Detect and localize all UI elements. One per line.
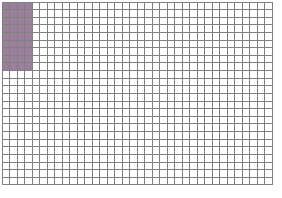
grid-cell-empty — [10, 109, 18, 117]
grid-cell-empty — [257, 116, 265, 124]
grid-cell-empty — [212, 32, 220, 40]
grid-cell-empty — [242, 78, 250, 86]
grid-cell-empty — [265, 177, 273, 185]
grid-cell-empty — [130, 32, 138, 40]
grid-cell-empty — [175, 10, 183, 18]
grid-cell-empty — [77, 2, 85, 10]
grid-cell-empty — [242, 132, 250, 140]
grid-cell-empty — [130, 93, 138, 101]
grid-cell-empty — [85, 109, 93, 117]
grid-cell-empty — [10, 93, 18, 101]
grid-cell-empty — [70, 63, 78, 71]
grid-cell-empty — [265, 101, 273, 109]
grid-cell-empty — [145, 71, 153, 79]
grid-cell-empty — [100, 55, 108, 63]
grid-cell-empty — [40, 154, 48, 162]
grid-cell-empty — [85, 162, 93, 170]
grid-cell-empty — [220, 48, 228, 56]
grid-cell-empty — [92, 132, 100, 140]
grid-cell-empty — [265, 154, 273, 162]
grid-cell-empty — [107, 132, 115, 140]
grid-cell-empty — [17, 154, 25, 162]
grid-cell-empty — [212, 124, 220, 132]
grid-cell-empty — [122, 177, 130, 185]
grid-cell-empty — [250, 10, 258, 18]
grid-cell-empty — [85, 10, 93, 18]
grid-cell-empty — [167, 177, 175, 185]
grid-cell-empty — [2, 86, 10, 94]
grid-cell-empty — [92, 124, 100, 132]
grid-cell-empty — [205, 101, 213, 109]
grid-cell-empty — [265, 25, 273, 33]
grid-cell-empty — [220, 154, 228, 162]
grid-cell-empty — [40, 109, 48, 117]
grid-cell-empty — [182, 170, 190, 178]
grid-cell-empty — [197, 10, 205, 18]
grid-cell-empty — [92, 101, 100, 109]
grid-cell-empty — [220, 109, 228, 117]
grid-cell-filled — [2, 10, 10, 18]
grid-cell-empty — [220, 2, 228, 10]
grid-cell-empty — [152, 101, 160, 109]
grid-cell-empty — [212, 139, 220, 147]
grid-cell-empty — [257, 124, 265, 132]
grid-cell-empty — [130, 177, 138, 185]
grid-cell-empty — [242, 2, 250, 10]
grid-cell-empty — [55, 109, 63, 117]
grid-cell-empty — [145, 78, 153, 86]
grid-cell-empty — [85, 48, 93, 56]
grid-cell-empty — [115, 32, 123, 40]
grid-cell-empty — [2, 154, 10, 162]
grid-cell-empty — [92, 116, 100, 124]
grid-cell-empty — [257, 86, 265, 94]
grid-cell-empty — [107, 78, 115, 86]
grid-cell-empty — [242, 139, 250, 147]
grid-cell-empty — [182, 124, 190, 132]
grid-cell-empty — [227, 154, 235, 162]
grid-cell-empty — [92, 78, 100, 86]
grid-cell-empty — [167, 63, 175, 71]
grid-cell-empty — [77, 109, 85, 117]
grid-cell-empty — [25, 177, 33, 185]
grid-cell-filled — [10, 32, 18, 40]
grid-cell-empty — [47, 154, 55, 162]
grid-cell-empty — [145, 109, 153, 117]
grid-cell-empty — [2, 71, 10, 79]
grid-cell-empty — [197, 40, 205, 48]
grid-cell-empty — [122, 162, 130, 170]
grid-cell-empty — [32, 116, 40, 124]
grid-cell-empty — [40, 124, 48, 132]
grid-cell-filled — [10, 2, 18, 10]
grid-cell-empty — [250, 132, 258, 140]
grid-cell-empty — [197, 101, 205, 109]
grid-cell-empty — [197, 71, 205, 79]
grid-cell-empty — [167, 162, 175, 170]
grid-cell-empty — [227, 170, 235, 178]
grid-cell-empty — [190, 139, 198, 147]
grid-cell-empty — [145, 86, 153, 94]
grid-cell-empty — [107, 170, 115, 178]
grid-cell-empty — [137, 17, 145, 25]
grid-cell-empty — [182, 132, 190, 140]
grid-cell-empty — [182, 162, 190, 170]
grid-cell-empty — [62, 93, 70, 101]
grid-cell-empty — [137, 147, 145, 155]
grid-cell-empty — [92, 17, 100, 25]
grid-cell-empty — [85, 177, 93, 185]
grid-cell-empty — [70, 2, 78, 10]
grid-cell-empty — [235, 177, 243, 185]
grid-cell-empty — [175, 124, 183, 132]
grid-cell-empty — [55, 10, 63, 18]
grid-cell-empty — [242, 17, 250, 25]
grid-cell-empty — [242, 25, 250, 33]
grid-cell-empty — [227, 71, 235, 79]
grid-cell-empty — [40, 139, 48, 147]
grid-cell-empty — [25, 162, 33, 170]
grid-cell-empty — [227, 55, 235, 63]
grid-cell-empty — [85, 147, 93, 155]
grid-cell-empty — [227, 93, 235, 101]
grid-cell-empty — [212, 177, 220, 185]
grid-cell-empty — [145, 162, 153, 170]
grid-cell-empty — [130, 78, 138, 86]
grid-cell-empty — [32, 124, 40, 132]
